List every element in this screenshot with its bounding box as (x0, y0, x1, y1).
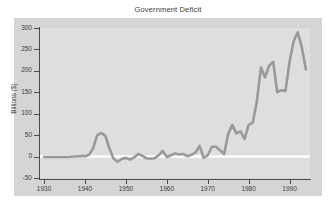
x-axis-tick-label: 1980 (232, 186, 266, 193)
x-axis-line (39, 179, 311, 180)
y-axis-tick-mark (34, 49, 39, 50)
y-axis-tick-mark (34, 92, 39, 93)
x-axis-tick-mark (85, 180, 86, 184)
x-axis-tick-label: 1970 (191, 186, 225, 193)
x-axis-tick-label: 1950 (109, 186, 143, 193)
y-axis-tick-labels: -50050100150200250300 (0, 0, 32, 208)
deficit-line-plot (40, 28, 310, 178)
x-axis-tick-label: 1960 (150, 186, 184, 193)
y-axis-tick-label: 50 (6, 132, 32, 139)
y-axis-tick-mark (34, 157, 39, 158)
y-axis-tick-mark (34, 28, 39, 29)
x-axis-tick-mark (167, 180, 168, 184)
x-axis-tick-label: 1940 (68, 186, 102, 193)
x-axis-tick-label: 1990 (273, 186, 307, 193)
x-axis-tick-mark (208, 180, 209, 184)
x-axis-tick-mark (290, 180, 291, 184)
x-axis-tick-mark (44, 180, 45, 184)
x-axis-tick-mark (126, 180, 127, 184)
chart-figure: Government Deficit Billions ($) -5005010… (0, 0, 336, 208)
y-axis-tick-mark (34, 114, 39, 115)
y-axis-tick-label: 100 (6, 110, 32, 117)
x-axis-tick-label: 1930 (27, 186, 61, 193)
y-axis-tick-label: 150 (6, 89, 32, 96)
y-axis-tick-label: 300 (6, 25, 32, 32)
y-axis-tick-label: -50 (6, 175, 32, 182)
y-axis-tick-label: 250 (6, 46, 32, 53)
y-axis-tick-mark (34, 178, 39, 179)
y-axis-tick-label: 0 (6, 153, 32, 160)
deficit-series-line (44, 32, 306, 161)
chart-title: Government Deficit (0, 5, 336, 14)
y-axis-tick-label: 200 (6, 67, 32, 74)
x-axis-tick-mark (249, 180, 250, 184)
y-axis-tick-mark (34, 135, 39, 136)
y-axis-tick-mark (34, 71, 39, 72)
plot-area (40, 28, 310, 178)
